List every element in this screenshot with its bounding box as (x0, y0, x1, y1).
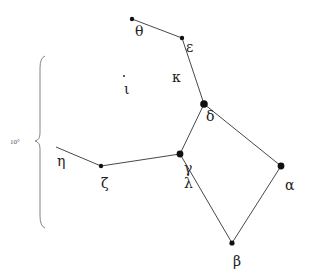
star-beta (229, 240, 234, 245)
constellation-lines (56, 19, 281, 243)
label-alpha: α (285, 177, 295, 193)
label-delta: δ (206, 108, 214, 124)
star-labels: θεκιδγλζηαβ (57, 23, 295, 269)
label-beta: β (233, 253, 241, 269)
label-zeta: ζ (101, 175, 109, 191)
edge-gamma-zeta (101, 154, 180, 166)
edge-delta-alpha (204, 104, 281, 166)
scale-indicator: 10° (10, 56, 45, 228)
label-iota: ι (124, 81, 130, 97)
scale-label: 10° (10, 138, 20, 146)
label-lambda: λ (184, 175, 193, 191)
edge-alpha-beta (232, 166, 281, 243)
star-iota (123, 75, 125, 77)
star-gamma (177, 151, 184, 158)
label-kappa: κ (172, 69, 181, 85)
label-eta: η (57, 153, 65, 169)
edge-delta-gamma (180, 104, 204, 154)
star-theta (130, 17, 134, 21)
scale-brace (35, 56, 45, 228)
label-theta: θ (135, 23, 143, 39)
star-delta (200, 100, 208, 108)
star-zeta (99, 164, 103, 168)
star-epsilon (180, 36, 184, 40)
constellation-diagram: 10° θεκιδγλζηαβ (0, 0, 310, 279)
star-alpha (278, 163, 285, 170)
label-gamma: γ (184, 160, 192, 176)
label-epsilon: ε (186, 39, 193, 55)
